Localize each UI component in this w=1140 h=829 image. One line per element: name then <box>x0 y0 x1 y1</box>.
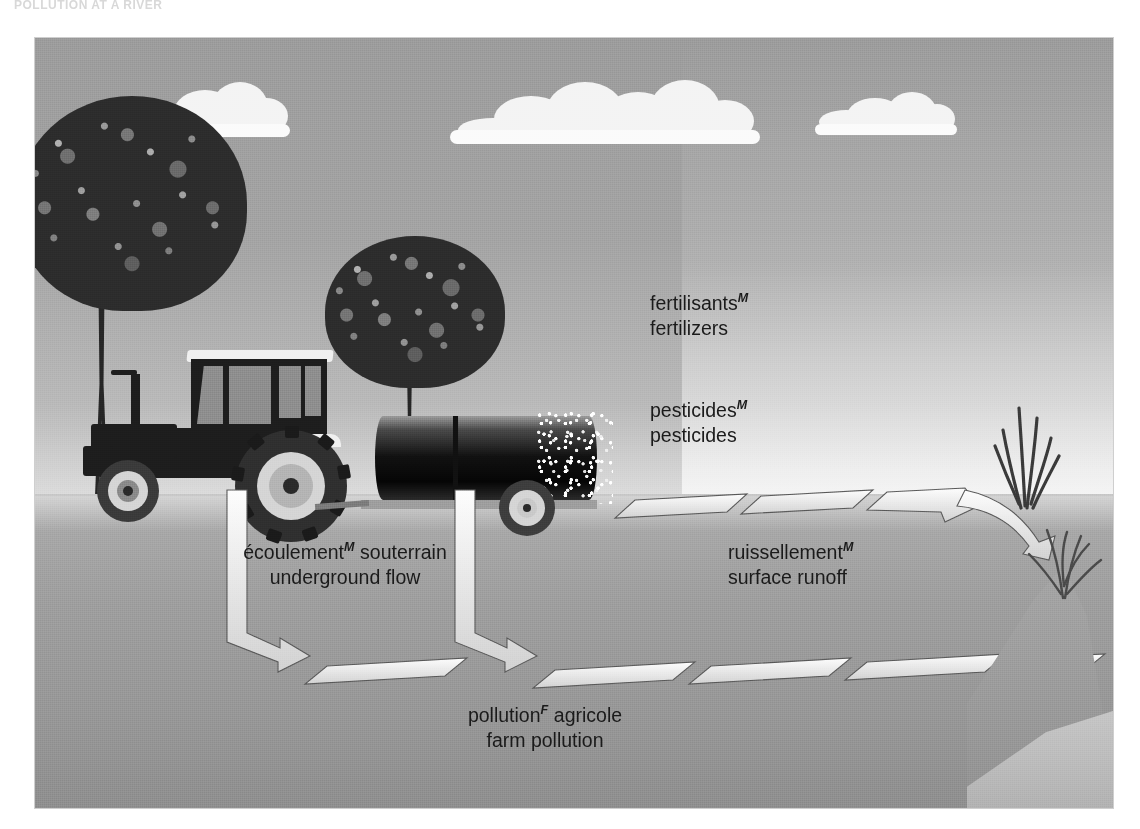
reed-plants <box>35 38 1113 808</box>
label-pesticides: pesticidesM pesticides <box>650 393 747 448</box>
label-farm-pollution-fr: pollutionF agricole <box>415 698 675 728</box>
label-underground-flow-en: underground flow <box>215 565 475 590</box>
label-underground-flow-fr-b: souterrain <box>355 541 447 563</box>
page-title: POLLUTION AT A RIVER <box>14 0 434 12</box>
reed-tall-1 <box>1019 408 1025 506</box>
label-pesticides-fr: pesticidesM <box>650 393 747 423</box>
label-farm-pollution: pollutionF agricole farm pollution <box>415 698 675 753</box>
label-underground-flow-fr-a: écoulement <box>243 541 344 563</box>
label-fertilizers-gender: M <box>738 291 749 305</box>
label-surface-runoff-gender: M <box>843 540 854 554</box>
label-fertilizers-fr: fertilisantsM <box>650 286 748 316</box>
figure-illustration: fertilisantsM fertilizers pesticidesM pe… <box>35 38 1113 808</box>
reed-tall-3 <box>1003 430 1021 508</box>
label-pesticides-fr-text: pesticides <box>650 399 737 421</box>
label-underground-flow-fr: écoulementM souterrain <box>215 535 475 565</box>
label-surface-runoff-fr-text: ruissellement <box>728 541 843 563</box>
label-pesticides-en: pesticides <box>650 423 747 448</box>
label-farm-pollution-fr-b: agricole <box>548 704 622 726</box>
label-underground-flow: écoulementM souterrain underground flow <box>215 535 475 590</box>
label-surface-runoff-fr: ruissellementM <box>728 535 854 565</box>
label-fertilizers-fr-text: fertilisants <box>650 292 738 314</box>
label-pesticides-gender: M <box>737 398 748 412</box>
label-fertilizers-en: fertilizers <box>650 316 748 341</box>
label-surface-runoff: ruissellementM surface runoff <box>728 535 854 590</box>
label-fertilizers: fertilisantsM fertilizers <box>650 286 748 341</box>
label-surface-runoff-en: surface runoff <box>728 565 854 590</box>
label-farm-pollution-fr-a: pollution <box>468 704 541 726</box>
label-farm-pollution-en: farm pollution <box>415 728 675 753</box>
reed-bush-1 <box>1047 530 1063 598</box>
label-underground-flow-gender: M <box>344 540 355 554</box>
